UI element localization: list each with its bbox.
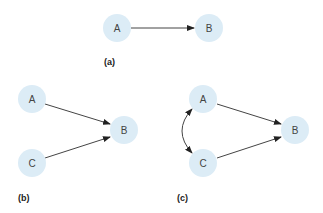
svg-text:C: C — [199, 158, 206, 169]
edge-a-b — [217, 104, 281, 124]
node-a: A — [18, 85, 46, 113]
node-a: A — [189, 85, 217, 113]
node-b: B — [281, 116, 309, 144]
panel-label-b: (b) — [18, 193, 30, 203]
node-c: C — [18, 149, 46, 177]
svg-text:A: A — [29, 94, 36, 105]
svg-text:A: A — [200, 94, 207, 105]
svg-text:B: B — [206, 23, 213, 34]
edge-c-b — [217, 137, 281, 158]
panel-label-c: (c) — [177, 193, 188, 203]
node-a: A — [103, 14, 131, 42]
edge-a-c-bidirected — [182, 109, 192, 153]
node-c: C — [189, 149, 217, 177]
panel-b: A B C (b) — [18, 85, 138, 203]
edge-c-b — [45, 137, 110, 158]
edge-a-b — [45, 104, 110, 124]
svg-text:C: C — [28, 158, 35, 169]
svg-text:B: B — [292, 125, 299, 136]
panel-label-a: (a) — [104, 57, 115, 67]
svg-text:B: B — [121, 125, 128, 136]
svg-text:A: A — [114, 23, 121, 34]
node-b: B — [110, 116, 138, 144]
panel-c: A B C (c) — [177, 85, 309, 203]
causal-diagrams: A B (a) A B C (b) A — [0, 0, 323, 213]
node-b: B — [195, 14, 223, 42]
panel-a: A B (a) — [103, 14, 223, 67]
